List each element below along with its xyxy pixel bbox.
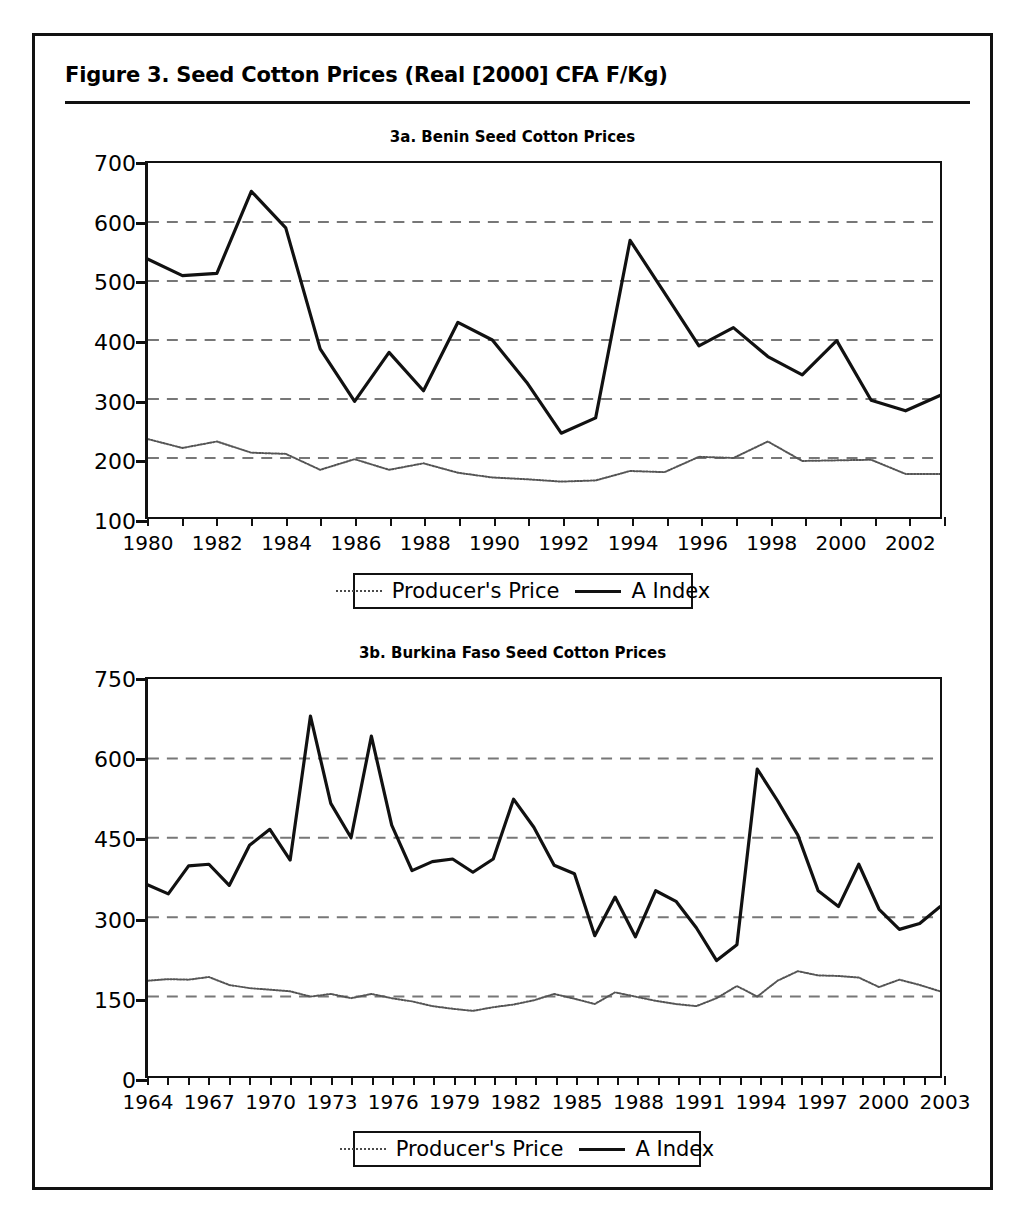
x-axis-label: 1973	[306, 1090, 357, 1114]
chart-b-title: 3b. Burkina Faso Seed Cotton Prices	[35, 644, 990, 662]
x-axis-label: 1964	[123, 1090, 174, 1114]
x-axis-tick	[494, 517, 496, 526]
legend-entry-producer-price-a: Producer's Price	[336, 579, 560, 603]
x-axis-tick	[474, 1076, 476, 1085]
x-axis-label: 1991	[674, 1090, 725, 1114]
y-axis-label: 500	[94, 270, 148, 295]
y-axis-label: 100	[94, 509, 148, 534]
x-axis-label: 2003	[920, 1090, 971, 1114]
x-axis-tick	[270, 1076, 272, 1085]
x-axis-label: 1994	[736, 1090, 787, 1114]
x-axis-label: 1982	[490, 1090, 541, 1114]
x-axis-label: 1997	[797, 1090, 848, 1114]
x-axis-label: 1994	[608, 531, 659, 555]
x-axis-tick	[182, 517, 184, 526]
x-axis-tick	[699, 1076, 701, 1085]
chart-b-svg	[148, 679, 940, 1076]
x-axis-tick	[390, 517, 392, 526]
x-axis-tick	[805, 517, 807, 526]
x-axis-tick	[251, 517, 253, 526]
x-axis-tick	[208, 1076, 210, 1085]
chart-a-plot-area: 1002003004005006007001980198219841986198…	[145, 161, 942, 519]
x-axis-tick	[617, 1076, 619, 1085]
x-axis-tick	[351, 1076, 353, 1085]
x-axis-tick	[310, 1076, 312, 1085]
x-axis-tick	[392, 1076, 394, 1085]
x-axis-tick	[459, 517, 461, 526]
x-axis-tick	[909, 517, 911, 526]
chart-b-legend: Producer's Price A Index	[353, 1131, 701, 1167]
x-axis-label: 2000	[816, 531, 867, 555]
x-axis-tick	[167, 1076, 169, 1085]
chart-b-plot-area: 0150300450600750196419671970197319761979…	[145, 677, 942, 1078]
x-axis-tick	[147, 1076, 149, 1085]
x-axis-tick	[637, 1076, 639, 1085]
x-axis-tick	[701, 517, 703, 526]
figure-title: Figure 3. Seed Cotton Prices (Real [2000…	[65, 63, 668, 87]
x-axis-label: 1990	[469, 531, 520, 555]
x-axis-label: 1986	[330, 531, 381, 555]
x-axis-tick	[147, 517, 149, 526]
x-axis-tick	[286, 517, 288, 526]
x-axis-label: 1992	[538, 531, 589, 555]
x-axis-tick	[903, 1076, 905, 1085]
x-axis-tick	[760, 1076, 762, 1085]
chart-panel-burkina-faso: 3b. Burkina Faso Seed Cotton Prices 0150…	[35, 644, 990, 1164]
x-axis-tick	[862, 1076, 864, 1085]
y-axis-label: 700	[94, 151, 148, 176]
x-axis-tick	[736, 517, 738, 526]
legend-label-producer-price: Producer's Price	[392, 579, 560, 603]
x-axis-tick	[658, 1076, 660, 1085]
x-axis-tick	[875, 517, 877, 526]
y-axis-label: 600	[94, 747, 148, 772]
x-axis-tick	[771, 517, 773, 526]
x-axis-tick	[924, 1076, 926, 1085]
x-axis-tick	[883, 1076, 885, 1085]
x-axis-tick	[944, 517, 946, 526]
legend-label-a-index: A Index	[631, 579, 710, 603]
x-axis-tick	[320, 517, 322, 526]
chart-a-title: 3a. Benin Seed Cotton Prices	[35, 128, 990, 146]
legend-label-producer-price: Producer's Price	[396, 1137, 564, 1161]
x-axis-tick	[842, 1076, 844, 1085]
solid-line-icon	[575, 590, 621, 593]
x-axis-tick	[801, 1076, 803, 1085]
y-axis-label: 450	[94, 827, 148, 852]
x-axis-label: 1985	[552, 1090, 603, 1114]
x-axis-tick	[667, 517, 669, 526]
x-axis-label: 2002	[885, 531, 936, 555]
y-axis-label: 750	[94, 667, 148, 692]
x-axis-tick	[821, 1076, 823, 1085]
legend-label-a-index: A Index	[635, 1137, 714, 1161]
x-axis-tick	[535, 1076, 537, 1085]
x-axis-tick	[229, 1076, 231, 1085]
x-axis-tick	[494, 1076, 496, 1085]
x-axis-label: 2000	[858, 1090, 909, 1114]
y-axis-label: 200	[94, 449, 148, 474]
x-axis-label: 1988	[613, 1090, 664, 1114]
x-axis-tick	[740, 1076, 742, 1085]
chart-panel-benin: 3a. Benin Seed Cotton Prices 10020030040…	[35, 128, 990, 618]
chart-a-legend: Producer's Price A Index	[353, 573, 693, 609]
y-axis-label: 600	[94, 210, 148, 235]
x-axis-label: 1970	[245, 1090, 296, 1114]
title-divider	[65, 101, 970, 104]
x-axis-tick	[597, 1076, 599, 1085]
x-axis-tick	[454, 1076, 456, 1085]
figure-frame: Figure 3. Seed Cotton Prices (Real [2000…	[32, 33, 993, 1190]
x-axis-label: 1976	[368, 1090, 419, 1114]
x-axis-label: 1980	[123, 531, 174, 555]
dotted-line-icon	[340, 1148, 386, 1150]
x-axis-tick	[331, 1076, 333, 1085]
x-axis-tick	[424, 517, 426, 526]
chart-a-svg	[148, 163, 940, 517]
x-axis-label: 1988	[400, 531, 451, 555]
x-axis-tick	[372, 1076, 374, 1085]
x-axis-label: 1996	[677, 531, 728, 555]
x-axis-label: 1998	[746, 531, 797, 555]
x-axis-label: 1982	[192, 531, 243, 555]
y-axis-label: 300	[94, 907, 148, 932]
x-axis-tick	[290, 1076, 292, 1085]
x-axis-tick	[528, 517, 530, 526]
x-axis-tick	[563, 517, 565, 526]
